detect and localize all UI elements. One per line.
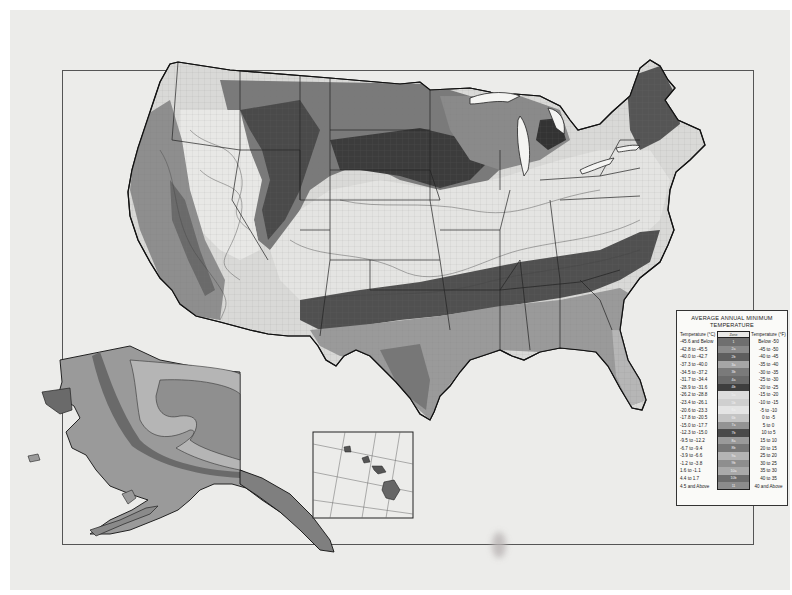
legend-zone-swatch: 4b xyxy=(717,384,750,392)
legend-celsius-range: 4.5 and Above xyxy=(677,484,717,489)
legend-fahrenheit-range: -30 to -35 xyxy=(750,370,787,375)
st-lawrence-island xyxy=(28,454,40,462)
legend-celsius-range: 4.4 to 1.7 xyxy=(677,476,717,481)
hardiness-zone-map xyxy=(0,0,792,595)
legend-fahrenheit-range: 40 and Above xyxy=(750,484,787,489)
legend-celsius-range: -42.8 to -45.5 xyxy=(677,347,717,352)
alaska-seward xyxy=(42,388,72,414)
legend-celsius-range: -28.9 to -31.6 xyxy=(677,385,717,390)
hawaii-inset xyxy=(313,432,413,518)
legend-fahrenheit-range: 40 to 35 xyxy=(750,476,787,481)
legend-celsius-range: -15.0 to -17.7 xyxy=(677,423,717,428)
legend-zone-swatch: 10b xyxy=(717,475,750,483)
legend-fahrenheit-range: -45 to -50 xyxy=(750,347,787,352)
legend-celsius-range: -31.7 to -34.4 xyxy=(677,377,717,382)
kauai xyxy=(344,446,351,452)
legend-zone-swatch: 8b xyxy=(717,444,750,452)
legend-row-zone-6b: -17.8 to -20.56b0 to -5 xyxy=(677,414,787,422)
legend-header: Temperature (°C) Zone Temperature (°F) xyxy=(677,331,787,338)
legend-zone-swatch: 9a xyxy=(717,452,750,460)
legend-row-zone-3a: -37.3 to -40.03a-35 to -40 xyxy=(677,361,787,369)
legend-header-fahrenheit: Temperature (°F) xyxy=(750,332,787,337)
legend-celsius-range: 1.6 to -1.1 xyxy=(677,468,717,473)
legend-row-zone-4a: -31.7 to -34.44a-25 to -30 xyxy=(677,376,787,384)
legend-fahrenheit-range: 10 to 5 xyxy=(750,430,787,435)
legend-row-zone-1: -45.6 and Below1Below -50 xyxy=(677,338,787,346)
legend-row-zone-7a: -15.0 to -17.77a5 to 0 xyxy=(677,422,787,430)
legend-fahrenheit-range: -25 to -30 xyxy=(750,377,787,382)
legend-title-line1: Average Annual Minimum xyxy=(677,315,787,322)
legend-fahrenheit-range: 20 to 15 xyxy=(750,446,787,451)
legend: Average Annual Minimum Temperature Tempe… xyxy=(676,310,788,506)
legend-celsius-range: -6.7 to -9.4 xyxy=(677,446,717,451)
legend-fahrenheit-range: -20 to -25 xyxy=(750,385,787,390)
legend-celsius-range: -26.2 to -28.8 xyxy=(677,392,717,397)
legend-zone-swatch: 7b xyxy=(717,429,750,437)
legend-row-zone-8a: -9.5 to -12.28a15 to 10 xyxy=(677,437,787,445)
legend-row-zone-10b: 4.4 to 1.710b40 to 35 xyxy=(677,475,787,483)
legend-celsius-range: -9.5 to -12.2 xyxy=(677,438,717,443)
legend-celsius-range: -20.6 to -23.3 xyxy=(677,408,717,413)
legend-fahrenheit-range: Below -50 xyxy=(750,339,787,344)
legend-celsius-range: -23.4 to -26.1 xyxy=(677,400,717,405)
legend-fahrenheit-range: -10 to -15 xyxy=(750,400,787,405)
legend-celsius-range: -40.0 to -42.7 xyxy=(677,354,717,359)
legend-fahrenheit-range: 25 to 20 xyxy=(750,453,787,458)
legend-zone-swatch: 8a xyxy=(717,437,750,445)
legend-header-zone: Zone xyxy=(717,331,750,338)
legend-title: Average Annual Minimum Temperature xyxy=(677,315,787,328)
legend-row-zone-9a: -3.9 to -6.69a25 to 20 xyxy=(677,452,787,460)
legend-header-celsius: Temperature (°C) xyxy=(677,332,717,337)
legend-celsius-range: -37.3 to -40.0 xyxy=(677,362,717,367)
legend-fahrenheit-range: 0 to -5 xyxy=(750,415,787,420)
legend-zone-swatch: 5b xyxy=(717,399,750,407)
legend-zone-swatch: 6a xyxy=(717,406,750,414)
legend-fahrenheit-range: 35 to 30 xyxy=(750,468,787,473)
legend-zone-swatch: 5a xyxy=(717,391,750,399)
legend-row-zone-5b: -23.4 to -26.15b-10 to -15 xyxy=(677,399,787,407)
legend-zone-swatch: 6b xyxy=(717,414,750,422)
legend-zone-swatch: 4a xyxy=(717,376,750,384)
legend-zone-swatch: 1 xyxy=(717,338,750,346)
legend-row-zone-5a: -26.2 to -28.85a-15 to -20 xyxy=(677,391,787,399)
legend-celsius-range: -17.8 to -20.5 xyxy=(677,415,717,420)
legend-celsius-range: -12.3 to -15.0 xyxy=(677,430,717,435)
legend-row-zone-6a: -20.6 to -23.36a-5 to -10 xyxy=(677,406,787,414)
legend-zone-swatch: 3a xyxy=(717,361,750,369)
legend-celsius-range: -34.5 to -37.2 xyxy=(677,370,717,375)
legend-fahrenheit-range: -35 to -40 xyxy=(750,362,787,367)
legend-celsius-range: -1.2 to -3.8 xyxy=(677,461,717,466)
legend-row-zone-8b: -6.7 to -9.48b20 to 15 xyxy=(677,444,787,452)
legend-zone-swatch: 7a xyxy=(717,422,750,430)
legend-row-zone-10a: 1.6 to -1.110a35 to 30 xyxy=(677,467,787,475)
legend-fahrenheit-range: -5 to -10 xyxy=(750,408,787,413)
legend-row-zone-2b: -40.0 to -42.72b-40 to -45 xyxy=(677,353,787,361)
legend-row-zone-3b: -34.5 to -37.23b-30 to -35 xyxy=(677,368,787,376)
legend-title-line2: Temperature xyxy=(677,322,787,329)
legend-celsius-range: -3.9 to -6.6 xyxy=(677,453,717,458)
legend-fahrenheit-range: 15 to 10 xyxy=(750,438,787,443)
legend-celsius-range: -45.6 and Below xyxy=(677,339,717,344)
legend-zone-swatch: 9b xyxy=(717,460,750,468)
legend-row-zone-4b: -28.9 to -31.64b-20 to -25 xyxy=(677,384,787,392)
legend-zone-swatch: 10a xyxy=(717,467,750,475)
legend-row-zone-2a: -42.8 to -45.52a-45 to -50 xyxy=(677,346,787,354)
legend-row-zone-7b: -12.3 to -15.07b10 to 5 xyxy=(677,429,787,437)
legend-zone-swatch: 2a xyxy=(717,346,750,354)
legend-zone-swatch: 11 xyxy=(717,482,750,490)
paper-smudge xyxy=(492,532,506,558)
legend-zone-swatch: 2b xyxy=(717,353,750,361)
legend-fahrenheit-range: -40 to -45 xyxy=(750,354,787,359)
legend-row-zone-9b: -1.2 to -3.89b30 to 25 xyxy=(677,460,787,468)
legend-fahrenheit-range: 30 to 25 xyxy=(750,461,787,466)
legend-rows: -45.6 and Below1Below -50-42.8 to -45.52… xyxy=(677,338,787,490)
alaska-inset xyxy=(28,346,334,552)
legend-fahrenheit-range: 5 to 0 xyxy=(750,423,787,428)
legend-row-zone-11: 4.5 and Above1140 and Above xyxy=(677,482,787,490)
legend-zone-swatch: 3b xyxy=(717,368,750,376)
legend-fahrenheit-range: -15 to -20 xyxy=(750,392,787,397)
